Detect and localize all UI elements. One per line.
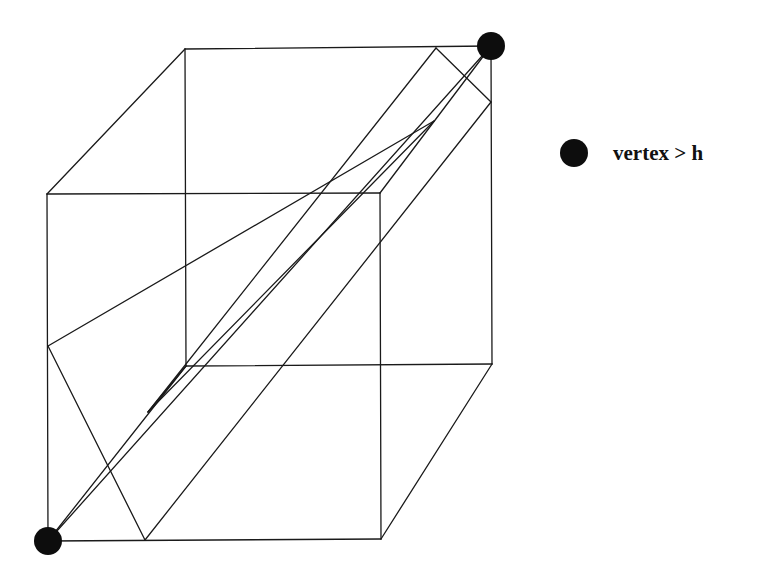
- front-right-edge: [380, 193, 381, 539]
- section-line: [145, 102, 491, 540]
- diagonal-line: [48, 46, 491, 541]
- back-left-edge: [185, 49, 186, 366]
- back-top-edge: [185, 46, 491, 49]
- connect-top-left: [47, 49, 185, 194]
- section-line: [148, 121, 434, 412]
- section-line: [148, 48, 436, 412]
- front-left-edge: [47, 194, 48, 541]
- front-top-edge: [47, 193, 380, 194]
- back-right-edge: [491, 46, 492, 364]
- back-bottom-edge: [186, 364, 492, 366]
- vertex-marker-bottom-left: [34, 527, 62, 555]
- section-line: [48, 121, 434, 346]
- section-line: [48, 346, 145, 540]
- cube-diagram: vertex > h: [0, 0, 762, 575]
- legend-label: vertex > h: [613, 141, 703, 165]
- section-lines: [48, 46, 491, 541]
- vertex-marker-top-right: [477, 32, 505, 60]
- connect-top-right: [380, 46, 491, 193]
- legend-marker-icon: [560, 139, 588, 167]
- front-bottom-edge: [48, 539, 381, 541]
- section-line: [148, 366, 186, 412]
- legend: vertex > h: [560, 139, 703, 167]
- connect-bottom-right: [381, 364, 492, 539]
